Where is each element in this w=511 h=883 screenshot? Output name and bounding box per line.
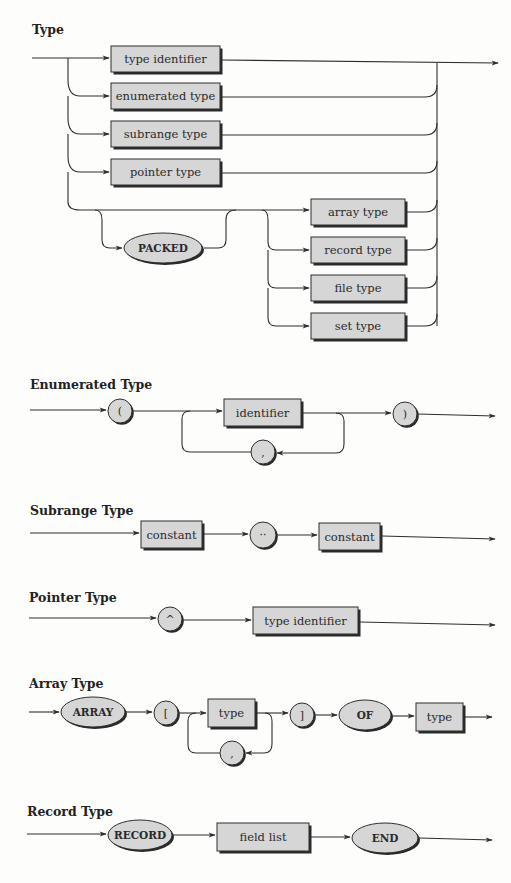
diagram-nodes: type identifierenumerated typesubrange t… <box>61 46 466 855</box>
nonterminal-box: constant <box>141 521 205 551</box>
symbol-circle: ( <box>108 399 134 425</box>
nonterminal-box: set type <box>311 313 408 342</box>
nonterminal-label: subrange type <box>124 127 208 141</box>
nonterminal-label: enumerated type <box>116 89 216 103</box>
keyword-label: RECORD <box>114 829 166 841</box>
subrange-diagram-title: Subrange Type <box>30 503 134 518</box>
type-diagram-title: Type <box>32 22 64 37</box>
symbol-label: ·· <box>260 529 267 542</box>
nonterminal-label: pointer type <box>130 165 201 179</box>
keyword-oval: END <box>352 823 420 855</box>
keyword-oval: OF <box>339 700 393 732</box>
symbol-circle: ] <box>290 703 316 729</box>
subrange-diagram: constantconstant·· <box>141 521 383 553</box>
nonterminal-box: identifier <box>224 399 304 429</box>
keyword-label: ARRAY <box>72 706 114 718</box>
nonterminal-box: subrange type <box>111 121 223 150</box>
pointer-diagram-title: Pointer Type <box>29 590 117 605</box>
record-diagram-title: Record Type <box>27 804 113 819</box>
nonterminal-box: type identifier <box>111 46 223 75</box>
symbol-circle: ) <box>393 402 419 428</box>
symbol-circle: ^ <box>158 607 184 633</box>
nonterminal-box: field list <box>217 823 312 854</box>
nonterminal-label: constant <box>146 528 197 542</box>
nonterminal-box: enumerated type <box>111 83 223 112</box>
enumerated-diagram-title: Enumerated Type <box>30 377 152 392</box>
nonterminal-label: field list <box>239 830 286 844</box>
symbol-circle: ·· <box>250 522 278 550</box>
nonterminal-label: type <box>219 706 244 720</box>
symbol-circle: [ <box>154 701 180 727</box>
nonterminal-label: file type <box>334 281 381 295</box>
type-diagram-wires <box>32 58 498 326</box>
symbol-circle: , <box>251 440 277 466</box>
nonterminal-label: constant <box>324 530 375 544</box>
array-diagram-title: Array Type <box>28 676 104 691</box>
symbol-label: ) <box>403 408 407 421</box>
nonterminal-label: array type <box>328 205 388 219</box>
syntax-diagrams-canvas: TypeEnumerated TypeSubrange TypePointer … <box>0 0 511 883</box>
keyword-oval: PACKED <box>124 233 204 265</box>
symbol-label: ( <box>118 405 122 418</box>
symbol-circle: , <box>220 741 246 767</box>
keyword-label: PACKED <box>138 242 188 254</box>
nonterminal-label: type identifier <box>264 614 347 628</box>
keyword-oval: RECORD <box>108 820 174 852</box>
type-diagram: type identifierenumerated typesubrange t… <box>111 46 408 342</box>
nonterminal-box: type identifier <box>253 607 361 637</box>
symbol-label: , <box>230 747 234 760</box>
nonterminal-box: constant <box>319 523 383 553</box>
nonterminal-box: record type <box>311 237 408 266</box>
nonterminal-box: file type <box>311 275 408 304</box>
keyword-oval: ARRAY <box>61 697 127 729</box>
nonterminal-box: array type <box>311 199 408 228</box>
nonterminal-box: pointer type <box>111 159 223 188</box>
symbol-label: , <box>261 446 265 459</box>
nonterminal-box: type <box>208 699 258 730</box>
nonterminal-label: record type <box>324 243 392 257</box>
nonterminal-label: identifier <box>236 406 290 420</box>
nonterminal-label: type identifier <box>124 52 207 66</box>
nonterminal-box: type <box>416 703 466 734</box>
keyword-label: END <box>372 832 399 844</box>
array-diagram: typetypeARRAYOF[], <box>61 697 466 767</box>
enumerated-diagram: identifier(), <box>108 399 419 466</box>
symbol-label: [ <box>164 707 168 720</box>
nonterminal-label: set type <box>335 319 381 333</box>
symbol-label: ] <box>300 709 304 722</box>
record-diagram: field listRECORDEND <box>108 820 420 855</box>
keyword-label: OF <box>357 709 374 721</box>
pointer-diagram: type identifier^ <box>158 607 361 637</box>
nonterminal-label: type <box>427 710 452 724</box>
symbol-label: ^ <box>165 613 174 626</box>
